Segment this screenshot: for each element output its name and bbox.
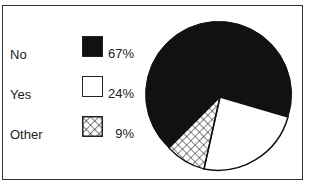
pie-chart [0, 0, 311, 188]
